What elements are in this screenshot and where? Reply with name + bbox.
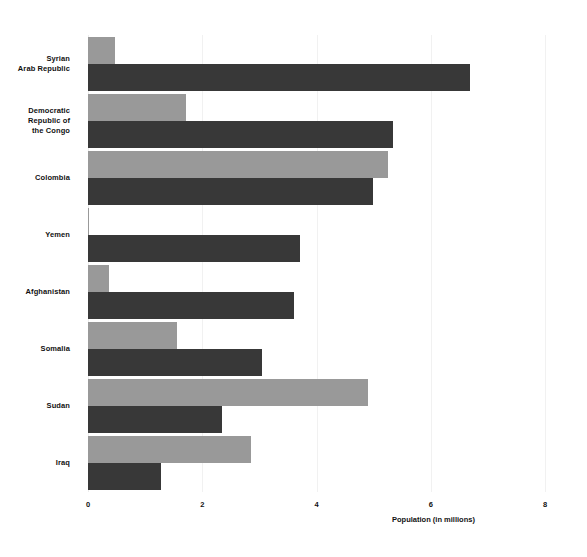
bar-group xyxy=(88,208,545,262)
bar-group xyxy=(88,436,545,490)
bar-group xyxy=(88,265,545,319)
bar-series-1 xyxy=(88,37,115,64)
x-tick-label: 6 xyxy=(411,500,451,509)
x-tick-label: 4 xyxy=(297,500,337,509)
bar-series-1 xyxy=(88,322,177,349)
category-label: DemocraticRepublic ofthe Congo xyxy=(0,106,70,136)
category-label-line: Democratic xyxy=(0,106,70,116)
bar-chart: SyrianArab RepublicDemocraticRepublic of… xyxy=(0,0,587,557)
bar-series-1 xyxy=(88,379,368,406)
gridline xyxy=(545,35,546,492)
category-label: Somalia xyxy=(0,344,70,354)
bar-series-1 xyxy=(88,436,251,463)
bar-series-2 xyxy=(88,463,161,490)
x-tick-label: 2 xyxy=(182,500,222,509)
category-label: Iraq xyxy=(0,458,70,468)
category-label-line: Somalia xyxy=(0,344,70,354)
bar-group xyxy=(88,379,545,433)
category-label-line: Yemen xyxy=(0,230,70,240)
bar-series-2 xyxy=(88,121,393,148)
bar-series-2 xyxy=(88,178,373,205)
bar-series-1 xyxy=(88,151,388,178)
bar-group xyxy=(88,322,545,376)
bar-group xyxy=(88,37,545,91)
category-label-line: Republic of xyxy=(0,116,70,126)
x-axis-label: Population (in millions) xyxy=(0,515,587,524)
category-label: Colombia xyxy=(0,173,70,183)
category-label: SyrianArab Republic xyxy=(0,54,70,74)
bar-series-2 xyxy=(88,292,294,319)
bar-series-1 xyxy=(88,208,89,235)
category-label-line: Colombia xyxy=(0,173,70,183)
x-axis-label-text: Population (in millions) xyxy=(392,515,475,524)
category-label-line: Arab Republic xyxy=(0,64,70,74)
bar-series-2 xyxy=(88,235,300,262)
bar-series-2 xyxy=(88,349,262,376)
category-label: Yemen xyxy=(0,230,70,240)
bar-series-2 xyxy=(88,406,222,433)
category-label-line: Syrian xyxy=(0,54,70,64)
bar-series-2 xyxy=(88,64,470,91)
bar-group xyxy=(88,151,545,205)
category-label-line: Afghanistan xyxy=(0,287,70,297)
category-label: Sudan xyxy=(0,401,70,411)
bar-group xyxy=(88,94,545,148)
bar-series-1 xyxy=(88,265,109,292)
category-label-line: Sudan xyxy=(0,401,70,411)
category-label-line: the Congo xyxy=(0,126,70,136)
bar-series-1 xyxy=(88,94,186,121)
x-tick-label: 0 xyxy=(68,500,108,509)
category-label: Afghanistan xyxy=(0,287,70,297)
plot-area xyxy=(88,35,545,492)
category-label-line: Iraq xyxy=(0,458,70,468)
x-tick-label: 8 xyxy=(525,500,565,509)
